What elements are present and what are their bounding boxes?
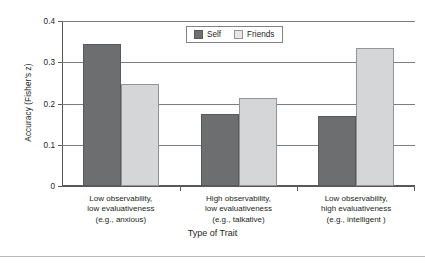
bar-friends-group3 [356,48,394,186]
bar-friends-group1 [121,84,159,186]
y-tick-mark [58,186,63,187]
x-tick-mark [297,186,298,191]
legend-label-self: Self [207,30,221,39]
y-tick-label: 0.4 [44,17,55,26]
legend-swatch-friends [234,30,243,39]
bar-self-group1 [83,44,121,186]
category-label-line: Low observability, [62,194,180,204]
category-label-line: Low observability, [297,194,415,204]
legend-label-friends: Friends [247,30,274,39]
y-tick-label: 0.3 [44,58,55,67]
category-label-line: low evaluativeness [180,204,298,214]
x-tick-mark [414,186,415,191]
y-tick-label: 0 [50,182,55,191]
bar-self-group2 [201,114,239,186]
category-label-line: (e.g., intelligent ) [297,215,415,225]
category-label-line: low evaluativeness [62,204,180,214]
bar-series-container [62,21,415,186]
category-label-line: High observability, [180,194,298,204]
category-label-line: (e.g., talkative) [180,215,298,225]
legend: Self Friends [186,26,283,43]
category-label-line: (e.g., anxious) [62,215,180,225]
plot-area: 00.10.20.30.4 [62,21,415,186]
x-tick-mark [180,186,181,191]
category-label-line: high evaluativeness [297,204,415,214]
category-label-3: Low observability,high evaluativeness(e.… [297,194,415,225]
footer-divider [0,256,425,257]
legend-swatch-self [194,30,203,39]
category-label-1: Low observability,low evaluativeness(e.g… [62,194,180,225]
legend-entry-self: Self [194,30,221,39]
legend-entry-friends: Friends [234,30,274,39]
bar-chart-figure: Accuracy (Fisher's z) 00.10.20.30.4 Low … [0,0,425,267]
y-axis-title: Accuracy (Fisher's z) [24,28,33,178]
category-label-2: High observability,low evaluativeness(e.… [180,194,298,225]
y-tick-label: 0.2 [44,99,55,108]
y-tick-label: 0.1 [44,140,55,149]
bar-self-group3 [318,116,356,186]
x-axis-title: Type of Trait [0,228,425,238]
bar-friends-group2 [239,98,277,186]
